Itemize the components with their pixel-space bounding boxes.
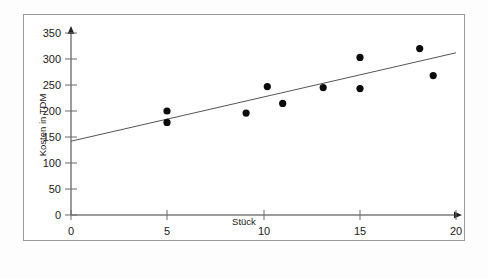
y-tick-label-350: 350 — [43, 27, 61, 39]
data-points — [163, 45, 436, 126]
y-tick-label-250: 250 — [43, 79, 61, 91]
data-point — [279, 100, 286, 107]
scatter-chart: 0 50 100 150 200 250 300 350 0 5 — [24, 15, 464, 240]
regression-line — [71, 53, 456, 141]
data-point — [243, 110, 250, 117]
y-axis — [68, 26, 75, 215]
data-point — [320, 84, 327, 91]
figure-root: 0 50 100 150 200 250 300 350 0 5 — [0, 0, 488, 279]
chart-frame: 0 50 100 150 200 250 300 350 0 5 — [23, 14, 465, 241]
data-point — [416, 45, 423, 52]
y-tick-label-50: 50 — [49, 183, 61, 195]
data-point — [264, 83, 271, 90]
y-tick-label-300: 300 — [43, 53, 61, 65]
data-point — [356, 85, 363, 92]
x-axis-title: Stück — [24, 216, 464, 227]
data-point — [356, 54, 363, 61]
y-tick-label-100: 100 — [43, 157, 61, 169]
data-point — [430, 72, 437, 79]
data-point — [163, 107, 170, 114]
y-axis-title: Kosten in TDM — [37, 94, 48, 157]
data-point — [163, 119, 170, 126]
